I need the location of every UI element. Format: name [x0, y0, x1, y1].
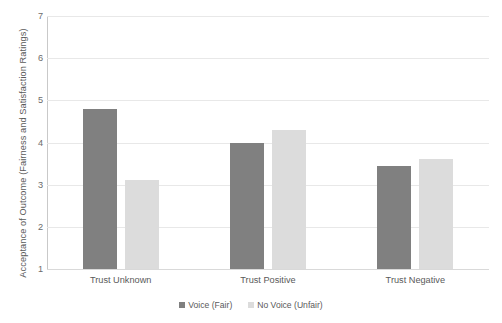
bar-chart: Acceptance of Outcome (Fairness and Sati… — [0, 0, 502, 323]
gridline — [47, 269, 489, 270]
x-axis-category-label: Trust Negative — [342, 274, 489, 286]
legend-entry[interactable]: No Voice (Unfair) — [248, 300, 322, 310]
legend-label: No Voice (Unfair) — [257, 300, 322, 310]
bar — [125, 180, 159, 269]
legend-swatch-icon — [179, 302, 185, 308]
gridline — [47, 58, 489, 59]
bar — [377, 166, 411, 269]
bar — [419, 159, 453, 269]
bar — [230, 143, 264, 270]
x-axis-category-label: Trust Unknown — [47, 274, 194, 286]
y-axis-tick-label: 4 — [21, 138, 43, 148]
y-axis-tick-label: 6 — [21, 53, 43, 63]
bar — [272, 130, 306, 269]
plot-area — [47, 16, 489, 269]
y-axis-tick-label: 3 — [21, 180, 43, 190]
y-axis-tick-labels: 1234567 — [17, 16, 43, 269]
y-axis-tick-label: 1 — [21, 264, 43, 274]
legend-swatch-icon — [248, 302, 254, 308]
gridline — [47, 16, 489, 17]
chart-legend: Voice (Fair)No Voice (Unfair) — [0, 300, 502, 310]
y-axis-tick-label: 2 — [21, 222, 43, 232]
bar — [83, 109, 117, 269]
legend-entry[interactable]: Voice (Fair) — [179, 300, 232, 310]
legend-label: Voice (Fair) — [188, 300, 232, 310]
x-axis-category-label: Trust Positive — [194, 274, 341, 286]
y-axis-tick-label: 7 — [21, 11, 43, 21]
gridline — [47, 100, 489, 101]
y-axis-tick-label: 5 — [21, 95, 43, 105]
x-axis-category-labels: Trust UnknownTrust PositiveTrust Negativ… — [47, 274, 489, 288]
